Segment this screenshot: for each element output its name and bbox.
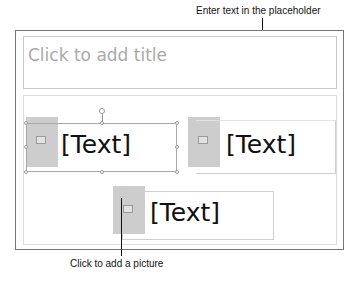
text-placeholder-1-text: [Text]: [61, 130, 131, 159]
resize-handle[interactable]: [175, 145, 179, 149]
callout-add-picture: Click to add a picture: [70, 258, 163, 269]
title-placeholder-text: Click to add title: [28, 45, 167, 65]
resize-handle[interactable]: [24, 145, 28, 149]
slide-canvas: Click to add title [Text] [Text]: [15, 30, 344, 250]
resize-handle[interactable]: [100, 170, 104, 174]
callout-leader-line: [121, 198, 122, 256]
content-area: [Text] [Text] [Text]: [23, 95, 337, 245]
resize-handle[interactable]: [175, 121, 179, 125]
resize-handle[interactable]: [100, 121, 104, 125]
text-placeholder-3[interactable]: [Text]: [122, 191, 274, 240]
text-placeholder-2[interactable]: [Text]: [196, 120, 336, 174]
text-placeholder-2-text: [Text]: [226, 130, 296, 159]
resize-handle[interactable]: [24, 170, 28, 174]
rotate-handle[interactable]: [99, 108, 105, 114]
text-placeholder-3-text: [Text]: [150, 198, 220, 227]
callout-enter-text: Enter text in the placeholder: [196, 5, 321, 16]
resize-handle[interactable]: [175, 170, 179, 174]
text-placeholder-1[interactable]: [Text]: [26, 123, 177, 172]
resize-handle[interactable]: [24, 121, 28, 125]
title-placeholder[interactable]: Click to add title: [23, 36, 337, 89]
